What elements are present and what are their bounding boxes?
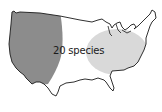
us-range-map: 20 species <box>0 0 162 112</box>
us-map-svg <box>0 0 162 112</box>
species-count-label: 20 species <box>53 45 104 56</box>
